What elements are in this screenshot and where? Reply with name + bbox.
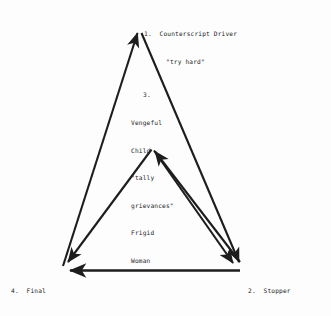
arrow-left-side-up bbox=[63, 33, 138, 266]
node-driver-line1: 1. Counterscript Driver bbox=[144, 29, 237, 38]
node-vengeful-child-line3: Child bbox=[131, 146, 174, 155]
node-vengeful-child-line1: 3. bbox=[131, 90, 174, 99]
node-vengeful-child-line5: grievances" bbox=[131, 201, 174, 210]
node-label-stopper: 2. Stopper "Don't be close" bbox=[248, 268, 314, 316]
node-vengeful-child-line6: Frigid bbox=[131, 228, 174, 237]
drama-triangle-diagram: 1. Counterscript Driver "try hard" 3. Ve… bbox=[0, 0, 331, 316]
node-final-payoff-line1: 4. Final bbox=[11, 286, 67, 295]
node-label-vengeful-child: 3. Vengeful Child "tally grievances" Fri… bbox=[131, 72, 174, 284]
node-stopper-line1: 2. Stopper bbox=[248, 286, 314, 295]
node-vengeful-child-line7: Woman bbox=[131, 256, 174, 265]
node-vengeful-child-line2: Vengeful bbox=[131, 118, 174, 127]
node-vengeful-child-line4: "tally bbox=[131, 173, 174, 182]
node-label-final-miniscript-payoff: 4. Final Miniscript Payoff "leave" bbox=[11, 268, 67, 316]
node-driver-line2: "try hard" bbox=[144, 57, 237, 66]
